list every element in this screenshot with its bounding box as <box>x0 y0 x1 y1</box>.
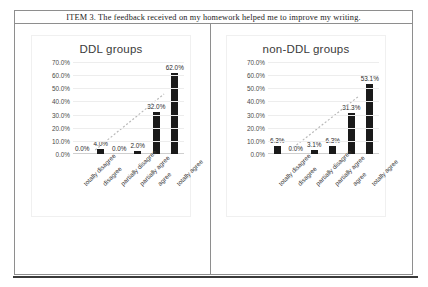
gridline <box>73 115 184 116</box>
x-tick-label: agree <box>351 171 367 187</box>
y-axis-ddl: 70.0%60.0%50.0%40.0%30.0%20.0%10.0%0.0% <box>36 62 70 154</box>
gridline <box>268 141 379 142</box>
y-tick-label: 50.0% <box>247 85 265 92</box>
x-tick-label: agree <box>156 171 172 187</box>
item-table: ITEM 3. The feedback received on my home… <box>14 10 413 275</box>
bar <box>97 149 104 154</box>
bar-value-label: 32.0% <box>147 103 165 110</box>
gridline <box>73 101 184 102</box>
y-tick-label: 70.0% <box>247 59 265 66</box>
bar-value-label: 0.0% <box>288 145 303 152</box>
bar <box>348 113 355 154</box>
bar-value-label: 0.0% <box>112 145 127 152</box>
y-tick-label: 0.0% <box>55 151 70 158</box>
gridline <box>73 75 184 76</box>
x-axis-non-ddl: totally disagreedisagreepartially disagr… <box>268 182 379 240</box>
y-tick-label: 30.0% <box>52 111 70 118</box>
y-tick-label: 0.0% <box>250 151 265 158</box>
bar <box>134 151 141 154</box>
gridline <box>73 88 184 89</box>
y-tick-label: 70.0% <box>52 59 70 66</box>
y-axis-non-ddl: 70.0%60.0%50.0%40.0%30.0%20.0%10.0%0.0% <box>231 62 265 154</box>
plot-area-wrapper: 70.0%60.0%50.0%40.0%30.0%20.0%10.0%0.0% … <box>32 62 190 154</box>
bar-value-label: 0.0% <box>75 145 90 152</box>
y-tick-label: 20.0% <box>247 124 265 131</box>
gridline <box>268 128 379 129</box>
chart-title: non-DDL groups <box>227 36 385 55</box>
bar <box>274 146 281 154</box>
y-tick-label: 40.0% <box>52 98 70 105</box>
plot-area-non-ddl: 6.3%0.0%3.1%6.3%31.3%53.1% <box>268 62 379 154</box>
table-body-row: DDL groups 70.0%60.0%50.0%40.0%30.0%20.0… <box>15 24 412 274</box>
chart-cell-ddl: DDL groups 70.0%60.0%50.0%40.0%30.0%20.0… <box>15 24 211 274</box>
bar <box>311 150 318 154</box>
chart-ddl-groups: DDL groups 70.0%60.0%50.0%40.0%30.0%20.0… <box>32 36 190 216</box>
y-tick-label: 60.0% <box>247 72 265 79</box>
x-tick-label: totally agree <box>175 158 204 187</box>
chart-cell-non-ddl: non-DDL groups 70.0%60.0%50.0%40.0%30.0%… <box>211 24 412 274</box>
bar-value-label: 31.3% <box>342 104 360 111</box>
plot-area-ddl: 0.0%4.0%0.0%2.0%32.0%62.0% <box>73 62 184 154</box>
chart-title: DDL groups <box>32 36 190 55</box>
gridline <box>268 75 379 76</box>
chart-non-ddl-groups: non-DDL groups 70.0%60.0%50.0%40.0%30.0%… <box>227 36 385 216</box>
gridline <box>73 141 184 142</box>
plot-area-wrapper: 70.0%60.0%50.0%40.0%30.0%20.0%10.0%0.0% … <box>227 62 385 154</box>
y-tick-label: 30.0% <box>247 111 265 118</box>
y-tick-label: 50.0% <box>52 85 70 92</box>
y-tick-label: 40.0% <box>247 98 265 105</box>
bar-value-label: 62.0% <box>166 64 184 71</box>
y-tick-label: 10.0% <box>247 137 265 144</box>
bar <box>329 146 336 154</box>
gridline <box>268 115 379 116</box>
x-tick-label: totally agree <box>370 158 399 187</box>
y-tick-label: 20.0% <box>52 124 70 131</box>
bar <box>153 112 160 154</box>
bar-value-label: 2.0% <box>130 142 145 149</box>
y-tick-label: 60.0% <box>52 72 70 79</box>
gridline <box>268 62 379 63</box>
item-statement: ITEM 3. The feedback received on my home… <box>66 13 360 22</box>
y-tick-label: 10.0% <box>52 137 70 144</box>
gridline <box>73 128 184 129</box>
bar-value-label: 3.1% <box>307 141 322 148</box>
x-axis-ddl: totally disagreedisagreepartially disagr… <box>73 182 184 240</box>
table-header-row: ITEM 3. The feedback received on my home… <box>15 11 412 24</box>
bar <box>366 84 373 154</box>
gridline <box>268 101 379 102</box>
gridline <box>73 62 184 63</box>
gridline <box>268 88 379 89</box>
bar-value-label: 53.1% <box>361 75 379 82</box>
